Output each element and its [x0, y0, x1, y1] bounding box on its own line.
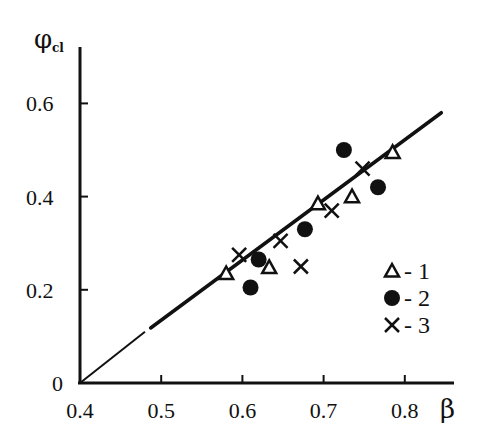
x-tick-label: 0.4 — [66, 398, 94, 423]
data-point-series-3 — [325, 204, 339, 218]
data-point-series-3 — [294, 260, 308, 274]
data-point-series-3 — [232, 248, 246, 262]
legend-label: - 1 — [404, 258, 430, 284]
y-axis-title-subscript: cl — [52, 41, 64, 55]
x-tick-label: 0.5 — [147, 398, 175, 423]
scatter-chart: 00.20.40.6 0.40.50.60.70.8 φ cl β - 1- 2… — [0, 0, 477, 445]
y-tick-label: 0.2 — [26, 278, 54, 303]
data-point-series-2 — [336, 142, 352, 158]
x-tick-label: 0.7 — [310, 398, 338, 423]
legend-marker-icon — [384, 290, 400, 306]
legend-label: - 2 — [404, 285, 430, 311]
x-tick-label: 0.8 — [391, 398, 419, 423]
legend-marker-icon — [385, 318, 399, 332]
y-axis-title: φ — [34, 24, 52, 54]
legend: - 1- 2- 3 — [384, 258, 430, 338]
data-point-series-1 — [345, 190, 359, 203]
x-axis-title: β — [440, 394, 455, 424]
data-point-series-3 — [274, 234, 288, 248]
legend-label: - 3 — [404, 312, 430, 338]
y-tick-label: 0 — [52, 371, 63, 396]
axes — [78, 47, 454, 384]
data-point-series-2 — [243, 279, 259, 295]
fit-line-dashed — [80, 332, 145, 383]
data-point-series-2 — [297, 221, 313, 237]
y-tick-label: 0.6 — [26, 91, 54, 116]
y-tick-label: 0.4 — [26, 185, 54, 210]
legend-marker-icon — [385, 264, 399, 277]
data-point-series-2 — [370, 179, 386, 195]
x-tick-label: 0.6 — [229, 398, 257, 423]
data-point-series-2 — [251, 252, 267, 268]
